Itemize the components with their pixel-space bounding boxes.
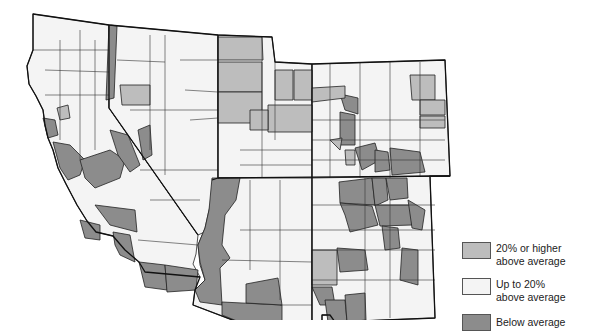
- legend-swatch-below: [462, 314, 491, 331]
- legend-item-high: 20% or higher above average: [462, 242, 592, 268]
- legend-label-moderate-line1: Up to 20%: [496, 278, 572, 291]
- legend-label-moderate-line2: above average: [496, 291, 572, 304]
- legend-label-high-line2: above average: [496, 255, 572, 268]
- legend-label-high-line1: 20% or higher: [496, 242, 572, 255]
- legend-label-below-line1: Below average: [496, 316, 572, 329]
- legend-swatch-high: [462, 242, 491, 259]
- legend: 20% or higher above average Up to 20% ab…: [462, 242, 592, 335]
- legend-item-below: Below average: [462, 314, 592, 331]
- legend-swatch-moderate: [462, 278, 491, 295]
- legend-item-moderate: Up to 20% above average: [462, 278, 592, 304]
